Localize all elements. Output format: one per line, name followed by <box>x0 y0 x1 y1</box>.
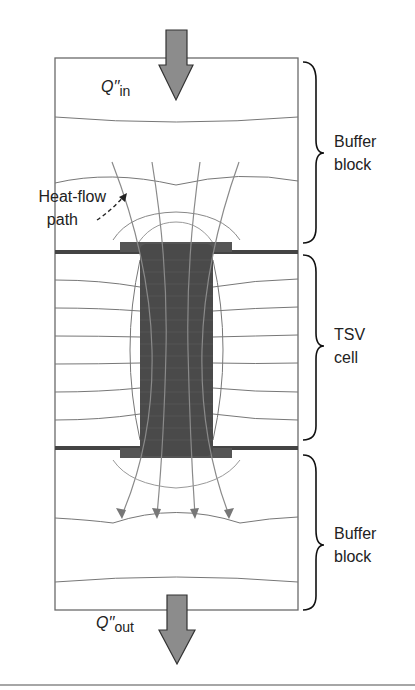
region-braces <box>303 62 324 610</box>
buffer-bottom-line1: Buffer <box>334 522 376 545</box>
buffer-top-line1: Buffer <box>334 130 376 153</box>
buffer-block-top-label: Buffer block <box>334 130 376 176</box>
heat-flow-label-line1: Heat-flow <box>24 185 106 208</box>
buffer-top-line2: block <box>334 153 376 176</box>
q-out-label: Q′′out <box>96 614 134 635</box>
heat-flow-path-label: Heat-flow path <box>24 185 106 231</box>
heat-flow-label-line2: path <box>24 208 106 231</box>
tsv-line2: cell <box>334 346 365 369</box>
buffer-block-bottom-label: Buffer block <box>334 522 376 568</box>
buffer-bottom-line2: block <box>334 545 376 568</box>
tsv-line1: TSV <box>334 323 365 346</box>
tsv-cell-label: TSV cell <box>334 323 365 369</box>
q-in-label: Q′′in <box>101 78 130 99</box>
